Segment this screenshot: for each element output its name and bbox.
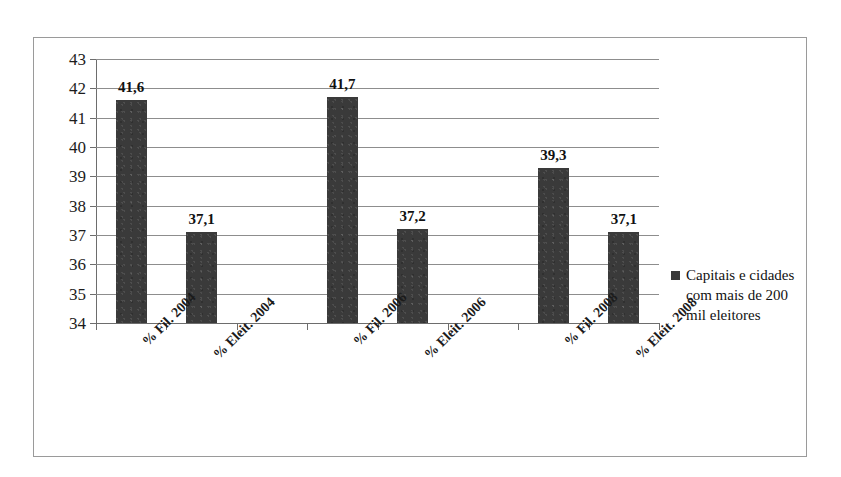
chart-legend: Capitais e cidades com mais de 200 mil e… xyxy=(671,266,801,325)
y-axis-tick-mark xyxy=(90,235,96,236)
y-axis-tick-label: 35 xyxy=(69,285,86,302)
bar-value-label: 41,6 xyxy=(118,80,144,95)
gridline xyxy=(96,264,659,265)
y-axis-tick-mark xyxy=(90,147,96,148)
y-axis-tick-label: 34 xyxy=(69,315,86,332)
gridline xyxy=(96,176,659,177)
y-axis-tick-label: 38 xyxy=(69,197,86,214)
gridline xyxy=(96,118,659,119)
bar[interactable] xyxy=(186,232,217,323)
bar-value-label: 37,1 xyxy=(188,212,214,227)
y-axis-tick-label: 42 xyxy=(69,80,86,97)
y-axis-tick-mark xyxy=(90,88,96,89)
x-axis-category-label: % Fil. 2004 xyxy=(140,339,150,349)
y-axis-tick-mark xyxy=(90,294,96,295)
y-axis-tick-mark xyxy=(90,176,96,177)
plot-area: 34353637383940414243 41,637,141,737,239,… xyxy=(96,59,659,323)
gridline xyxy=(96,147,659,148)
x-axis-category-label: % Eleit. 2004 xyxy=(211,352,221,362)
y-axis-tick-label: 40 xyxy=(69,139,86,156)
legend-label-line-3: mil eleitores xyxy=(686,306,794,326)
bar[interactable] xyxy=(608,232,639,323)
x-axis-category-label: % Fil. 2006 xyxy=(351,339,361,349)
bar[interactable] xyxy=(538,168,569,323)
x-axis-category-label: % Eleit. 2006 xyxy=(422,352,432,362)
y-axis-tick-label: 36 xyxy=(69,256,86,273)
bar[interactable] xyxy=(116,100,147,323)
y-axis-line xyxy=(96,59,97,323)
x-axis-tick-mark xyxy=(96,323,97,330)
x-axis-category-label: % Eleit. 2008 xyxy=(633,352,643,362)
legend-label: Capitais e cidades com mais de 200 mil e… xyxy=(686,266,794,325)
y-axis-tick-label: 37 xyxy=(69,227,86,244)
gridline xyxy=(96,235,659,236)
bar-value-label: 41,7 xyxy=(329,77,355,92)
legend-swatch-icon xyxy=(671,271,680,280)
gridline xyxy=(96,206,659,207)
bar[interactable] xyxy=(397,229,428,323)
y-axis-tick-mark xyxy=(90,59,96,60)
y-axis-tick-label: 43 xyxy=(69,51,86,68)
bar[interactable] xyxy=(327,97,358,323)
bar-value-label: 39,3 xyxy=(540,148,566,163)
gridline xyxy=(96,294,659,295)
bar-value-label: 37,2 xyxy=(400,209,426,224)
y-axis-tick-mark xyxy=(90,264,96,265)
x-axis-tick-mark xyxy=(518,323,519,330)
legend-label-line-1: Capitais e cidades xyxy=(686,266,794,286)
x-axis-tick-mark xyxy=(307,323,308,330)
bar-value-label: 37,1 xyxy=(611,212,637,227)
gridline xyxy=(96,59,659,60)
y-axis-tick-mark xyxy=(90,206,96,207)
y-axis-tick-label: 39 xyxy=(69,168,86,185)
gridline xyxy=(96,88,659,89)
legend-label-line-2: com mais de 200 xyxy=(686,286,794,306)
x-axis-category-label: % Fil. 2008 xyxy=(562,339,572,349)
y-axis-tick-mark xyxy=(90,118,96,119)
y-axis-tick-label: 41 xyxy=(69,109,86,126)
chart-frame: 34353637383940414243 41,637,141,737,239,… xyxy=(33,37,807,457)
